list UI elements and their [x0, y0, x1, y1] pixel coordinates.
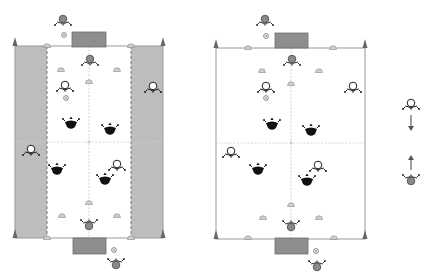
cone-icon	[58, 68, 65, 72]
cone-icon	[288, 82, 295, 86]
cone-icon	[128, 236, 135, 240]
cone-icon	[288, 203, 295, 207]
ball-icon	[64, 96, 69, 101]
goal	[73, 238, 106, 254]
white-player-figure	[108, 160, 126, 171]
black-player-icon	[62, 117, 80, 129]
white-player-figure	[309, 161, 327, 172]
goalkeeper-figure	[107, 258, 125, 269]
legend	[402, 99, 420, 185]
black-player-icon	[263, 118, 281, 130]
cone-icon	[331, 236, 338, 240]
cone-icon	[259, 69, 266, 73]
black-player-icon	[48, 163, 66, 175]
goal	[275, 238, 308, 254]
white-player-icon	[56, 81, 74, 92]
corner-flag-icon	[13, 37, 18, 46]
cone-icon	[86, 80, 93, 84]
cone-icon	[330, 46, 337, 50]
black-player-figure	[302, 124, 320, 136]
goal	[275, 33, 308, 48]
cone-icon	[316, 69, 323, 73]
center-spot	[88, 141, 91, 144]
cone-icon	[86, 201, 93, 205]
goalkeeper-figure	[308, 260, 326, 271]
arrow-down-head-icon	[408, 126, 414, 131]
white-player-icon	[309, 161, 327, 172]
goalkeeper-icon	[282, 220, 300, 231]
goalkeeper-figure	[81, 55, 99, 66]
legend-grey-player-icon	[402, 174, 420, 185]
cone-icon	[59, 214, 66, 218]
black-player-icon	[101, 123, 119, 135]
black-player-figure	[249, 163, 267, 175]
black-player-figure	[263, 118, 281, 130]
cone-icon	[114, 68, 121, 72]
training-drill-diagram	[0, 0, 426, 278]
goalkeeper-icon	[308, 260, 326, 271]
corner-flag-icon	[363, 39, 368, 48]
goalkeeper-figure	[54, 15, 72, 26]
goalkeeper-icon	[80, 219, 98, 230]
fields-layer	[13, 32, 368, 254]
ball-icon	[314, 249, 319, 254]
white-player-icon	[108, 160, 126, 171]
corner-flag-icon	[214, 230, 219, 239]
goal	[72, 32, 106, 47]
goalkeeper-icon	[81, 55, 99, 66]
legend-white-player-icon	[402, 99, 420, 110]
cone-icon	[260, 216, 267, 220]
white-player-icon	[222, 147, 240, 158]
corner-flag-icon	[161, 37, 166, 46]
cone-icon	[316, 216, 323, 220]
cone-icon	[245, 46, 252, 50]
ball-icon	[112, 248, 117, 253]
cone-icon	[44, 236, 51, 240]
goalkeeper-figure	[256, 15, 274, 26]
black-player-icon	[96, 173, 114, 185]
white-player-figure	[222, 147, 240, 158]
black-player-icon	[249, 163, 267, 175]
cone-icon	[245, 236, 252, 240]
black-player-icon	[302, 124, 320, 136]
black-player-figure	[48, 163, 66, 175]
goalkeeper-figure	[80, 219, 98, 230]
goalkeeper-figure	[283, 55, 301, 66]
goalkeeper-icon	[256, 15, 274, 26]
cone-icon	[44, 44, 51, 48]
goalkeeper-icon	[107, 258, 125, 269]
black-player-figure	[101, 123, 119, 135]
black-player-figure	[96, 173, 114, 185]
goalkeeper-icon	[283, 55, 301, 66]
white-player-figure	[56, 81, 74, 92]
goalkeeper-icon	[54, 15, 72, 26]
ball-icon	[264, 34, 269, 39]
cone-icon	[128, 44, 135, 48]
black-player-figure	[62, 117, 80, 129]
black-player-icon	[298, 174, 316, 186]
cone-icon	[114, 214, 121, 218]
ball-icon	[264, 96, 269, 101]
white-player-figure	[344, 82, 362, 93]
center-spot	[290, 142, 293, 145]
grey-player-figure	[402, 174, 420, 185]
black-player-figure	[298, 174, 316, 186]
arrow-up-head-icon	[408, 155, 414, 160]
white-player-figure	[402, 99, 420, 110]
ball-icon	[62, 33, 67, 38]
white-player-figure	[257, 82, 275, 93]
white-player-icon	[344, 82, 362, 93]
corner-flag-icon	[214, 39, 219, 48]
white-player-icon	[257, 82, 275, 93]
corner-flag-icon	[363, 230, 368, 239]
goalkeeper-figure	[282, 220, 300, 231]
